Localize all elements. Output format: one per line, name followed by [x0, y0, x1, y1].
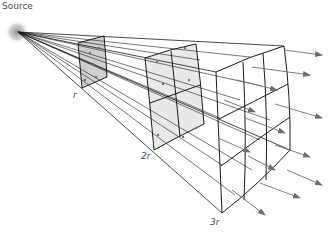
inverse-square-diagram	[0, 0, 333, 234]
flux-arrows	[218, 50, 322, 215]
